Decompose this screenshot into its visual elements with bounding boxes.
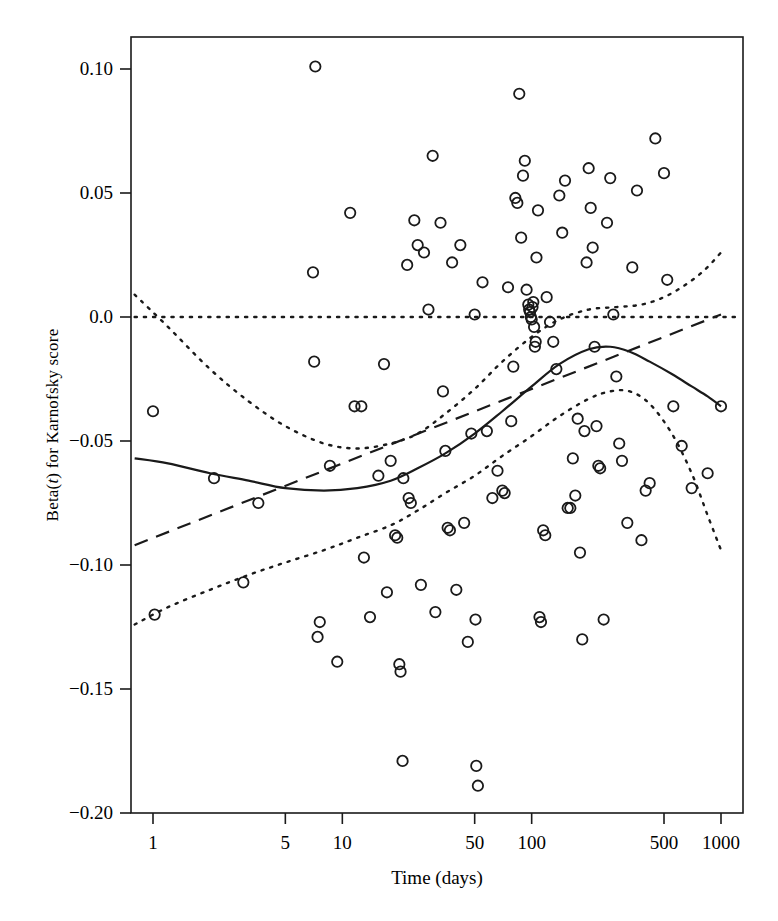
y-axis-title-post: ) for Karnofsky score: [43, 329, 62, 479]
y-tick-label: −0.20: [69, 802, 113, 823]
beta-t-karnofsky-scatter-chart: 0.100.050.0−0.05−0.10−0.15−0.20 15105010…: [0, 0, 778, 921]
y-tick-label: 0.10: [80, 58, 113, 79]
svg-text:Beta(t) for Karnofsky score: Beta(t) for Karnofsky score: [43, 329, 62, 522]
x-tick-label: 1000: [702, 832, 740, 853]
x-tick-label: 10: [333, 832, 352, 853]
y-tick-label: −0.15: [69, 678, 113, 699]
x-tick-label: 1: [148, 832, 158, 853]
y-axis-title-pre: Beta(: [43, 483, 62, 521]
x-tick-label: 500: [650, 832, 679, 853]
x-axis-title: Time (days): [391, 867, 483, 889]
y-tick-label: 0.05: [80, 182, 113, 203]
y-tick-label: −0.05: [69, 430, 113, 451]
x-tick-label: 50: [465, 832, 484, 853]
x-tick-label: 100: [517, 832, 546, 853]
x-tick-label: 5: [281, 832, 291, 853]
y-tick-label: 0.0: [89, 306, 113, 327]
y-axis-title: Beta(t) for Karnofsky score: [43, 329, 62, 522]
y-tick-label: −0.10: [69, 554, 113, 575]
